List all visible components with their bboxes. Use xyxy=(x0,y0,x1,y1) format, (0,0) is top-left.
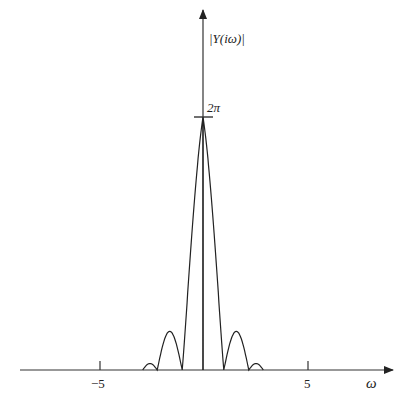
peak-label: 2π xyxy=(207,101,220,114)
spectrum-chart xyxy=(0,0,408,401)
x-axis-label: ω xyxy=(366,376,377,391)
x-tick-label-neg5: −5 xyxy=(91,377,105,390)
y-axis-label: |Y(iω)| xyxy=(209,32,245,45)
x-tick-label-pos5: 5 xyxy=(304,377,311,390)
magnitude-curve xyxy=(143,117,264,370)
